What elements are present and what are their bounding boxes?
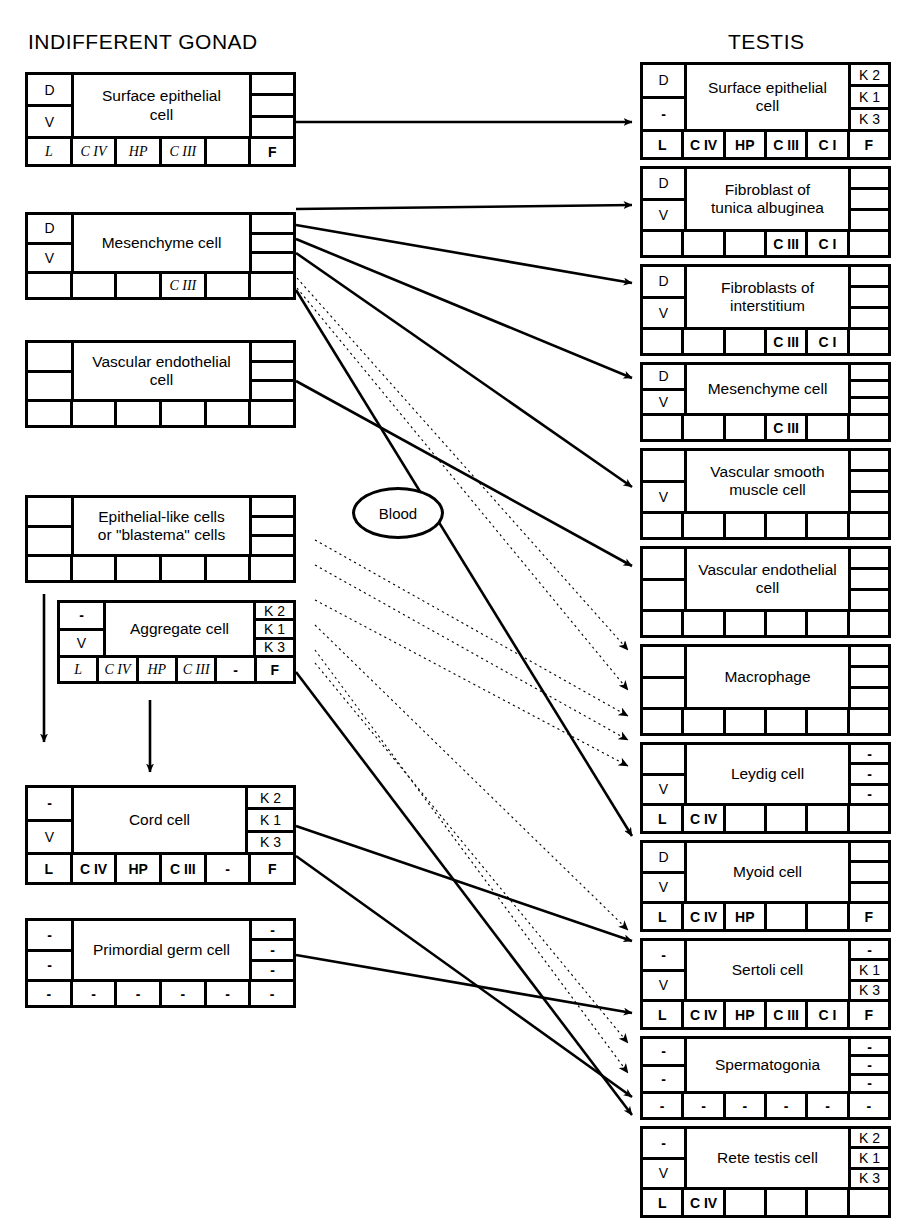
cell-box-matrix-row: C III — [643, 413, 888, 439]
cell-box-name: Mesenchyme cell — [687, 365, 848, 413]
cell-box-vascular-smooth-muscle-cell[interactable]: VVascular smooth muscle cell — [640, 448, 891, 540]
matrix-cell — [723, 710, 764, 733]
cell-box-matrix-row — [643, 511, 888, 537]
keratin-cell — [252, 115, 293, 136]
matrix-cell: C IV — [681, 1190, 722, 1215]
matrix-cell — [159, 557, 204, 580]
cell-box-vascular-endothelial-cell[interactable]: Vascular endothelial cell — [25, 340, 296, 428]
cell-box-mesenchyme-cell[interactable]: DVMesenchyme cellC III — [25, 212, 296, 300]
cell-box-fibroblasts-of-interstitium[interactable]: DVFibroblasts of interstitiumC IIIC I — [640, 264, 891, 356]
keratin-cell — [851, 208, 888, 229]
cell-box-right-markers — [848, 169, 888, 229]
blood-node[interactable]: Blood — [352, 487, 444, 539]
cell-box-left-markers: -V — [643, 941, 687, 999]
marker-cell: D — [28, 75, 71, 104]
cell-box-right-markers — [249, 343, 293, 399]
keratin-cell: - — [851, 745, 888, 762]
marker-cell: - — [643, 96, 684, 130]
matrix-cell — [847, 514, 888, 537]
keratin-cell: K 3 — [851, 979, 888, 999]
cell-box-body: --Spermatogonia--- — [643, 1039, 888, 1091]
cell-box-name: Fibroblasts of interstitium — [687, 267, 848, 327]
cell-box-cord-cell[interactable]: -VCord cellK 2K 1K 3LC IVHPC III-F — [25, 785, 296, 885]
cell-box-macrophage[interactable]: Macrophage — [640, 644, 891, 736]
matrix-cell — [723, 1190, 764, 1215]
keratin-cell — [252, 75, 293, 93]
cell-box-left-markers: -- — [643, 1039, 687, 1091]
connector-cord-to-rete — [296, 856, 632, 1097]
matrix-cell: C III — [764, 232, 805, 255]
cell-box-rete-testis-cell[interactable]: -VRete testis cellK 2K 1K 3LC IV — [640, 1126, 891, 1218]
cell-box-name: Leydig cell — [687, 745, 848, 803]
keratin-cell: - — [252, 921, 293, 938]
cell-box-primordial-germ-cell[interactable]: --Primordial germ cell--------- — [25, 918, 296, 1008]
keratin-cell — [252, 215, 293, 232]
marker-cell: - — [643, 1064, 684, 1092]
matrix-cell — [847, 232, 888, 255]
connector-endothelial-to-endothelial — [296, 381, 632, 566]
marker-cell: V — [643, 773, 684, 804]
cell-box-name: Spermatogonia — [687, 1039, 848, 1091]
cell-box-body: DVSurface epithelial cell — [28, 75, 293, 136]
matrix-cell: C I — [805, 132, 846, 157]
marker-cell: V — [643, 1157, 684, 1188]
cell-box-fibroblast-of-tunica-albuginea[interactable]: DVFibroblast of tunica albugineaC IIIC I — [640, 166, 891, 258]
cell-box-mesenchyme-cell[interactable]: DVMesenchyme cellC III — [640, 362, 891, 442]
keratin-cell: K 2 — [256, 603, 293, 618]
keratin-cell — [851, 647, 888, 665]
marker-cell — [643, 647, 684, 676]
matrix-cell — [847, 1190, 888, 1215]
cell-box-body: DVMesenchyme cell — [28, 215, 293, 271]
keratin-cell: K 1 — [851, 1146, 888, 1166]
cell-box-surface-epithelial-cell[interactable]: DVSurface epithelial cellLC IVHPC IIIF — [25, 72, 296, 167]
matrix-cell: C I — [805, 232, 846, 255]
cell-box-right-markers: K 2K 1K 3 — [848, 65, 888, 129]
matrix-cell — [204, 139, 249, 164]
matrix-cell — [204, 274, 249, 297]
matrix-cell: L — [28, 855, 70, 882]
cell-box-myoid-cell[interactable]: DVMyoid cellLC IVHPF — [640, 840, 891, 932]
connector-cord-to-sertoli — [296, 826, 632, 941]
matrix-cell — [248, 274, 293, 297]
keratin-cell: - — [252, 959, 293, 979]
cell-box-left-markers: -V — [60, 603, 106, 655]
matrix-cell: C IV — [70, 139, 115, 164]
matrix-cell: C III — [764, 330, 805, 353]
cell-box-body: Vascular endothelial cell — [28, 343, 293, 399]
keratin-cell — [252, 515, 293, 535]
matrix-cell: L — [60, 658, 96, 681]
cell-box-sertoli-cell[interactable]: -VSertoli cell-K 1K 3LC IVHPC IIIC IF — [640, 938, 891, 1030]
cell-box-vascular-endothelial-cell[interactable]: Vascular endothelial cell — [640, 546, 891, 638]
connector-blood-to-macrophage — [297, 278, 628, 650]
matrix-cell — [805, 806, 846, 831]
marker-cell — [643, 676, 684, 708]
marker-cell: - — [643, 941, 684, 969]
cell-box-body: -VSertoli cell-K 1K 3 — [643, 941, 888, 999]
cell-box-body: -VAggregate cellK 2K 1K 3 — [60, 603, 293, 655]
cell-box-matrix-row: LC IV — [643, 803, 888, 831]
matrix-cell: F — [248, 855, 293, 882]
cell-box-surface-epithelial-cell[interactable]: D-Surface epithelial cellK 2K 1K 3LC IVH… — [640, 62, 891, 160]
cell-box-spermatogonia[interactable]: --Spermatogonia--------- — [640, 1036, 891, 1120]
cell-box-leydig-cell[interactable]: VLeydig cell---LC IV — [640, 742, 891, 834]
keratin-cell — [851, 686, 888, 707]
matrix-cell — [805, 710, 846, 733]
matrix-cell — [681, 710, 722, 733]
right-column-title: TESTIS — [728, 30, 805, 54]
keratin-cell — [252, 498, 293, 515]
keratin-cell: K 3 — [256, 637, 293, 655]
matrix-cell: - — [214, 658, 253, 681]
connector-blood-lower-1 — [315, 625, 628, 930]
cell-box-matrix-row: LC IVHPC IIIF — [28, 136, 293, 164]
marker-cell: - — [28, 788, 71, 819]
cell-box-body: --Primordial germ cell--- — [28, 921, 293, 979]
cell-box-matrix-row: LC IVHPC IIIC IF — [643, 999, 888, 1027]
matrix-cell — [805, 416, 846, 439]
cell-box-epithelial-like-cells[interactable]: Epithelial-like cells or "blastema" cell… — [25, 495, 296, 583]
cell-box-matrix-row: C III — [28, 271, 293, 297]
cell-box-aggregate-cell[interactable]: -VAggregate cellK 2K 1K 3LC IVHPC III-F — [57, 600, 296, 684]
cell-box-left-markers: V — [643, 451, 687, 511]
matrix-cell: L — [28, 139, 70, 164]
matrix-cell — [681, 232, 722, 255]
